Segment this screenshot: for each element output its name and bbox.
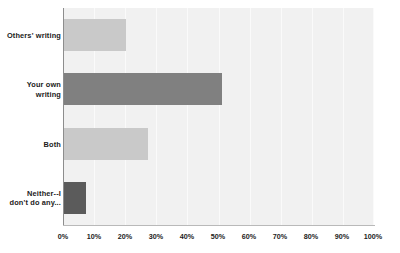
category-label-others-writing: Others' writing	[0, 31, 61, 41]
bar-neither	[64, 182, 86, 214]
bar-your-own-writing	[64, 73, 222, 105]
category-label-your-own-writing: Your own writing	[0, 80, 61, 99]
category-label-both: Both	[0, 140, 61, 150]
bar-others-writing	[64, 19, 126, 51]
bar-row-1	[63, 62, 374, 116]
plot-area	[63, 8, 374, 225]
bar-row-3	[63, 171, 374, 225]
category-label-line: Others' writing	[0, 31, 61, 41]
chart-screenshot: Others' writing Your own writing Both Ne…	[0, 0, 400, 253]
category-label-line: Both	[0, 140, 61, 150]
x-axis-line	[63, 225, 375, 226]
category-label-neither: Neither--I don't do any...	[0, 189, 61, 208]
y-axis-line	[63, 8, 64, 225]
bar-row-0	[63, 8, 374, 62]
bar-both	[64, 128, 148, 160]
category-label-line: Neither--I	[0, 189, 61, 199]
bar-row-2	[63, 117, 374, 171]
x-tick-label-100: 100%	[353, 232, 393, 241]
category-label-line: writing	[0, 90, 61, 100]
category-label-line: don't do any...	[0, 198, 61, 208]
category-label-line: Your own	[0, 80, 61, 90]
